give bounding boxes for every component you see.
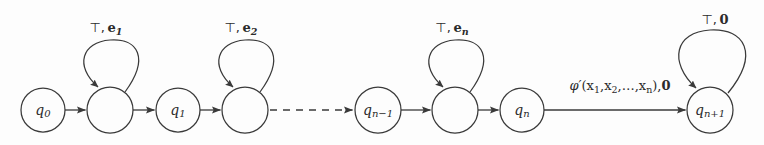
node-q1[interactable]: q1 — [156, 88, 200, 132]
node-aux1-circle[interactable] — [87, 87, 133, 133]
node-q0[interactable]: q0 — [21, 88, 65, 132]
automaton-figure: q0 q1 qn−1 qn — [0, 0, 764, 145]
self-loop-label-1: ⊤, e1 — [90, 20, 123, 37]
node-aux2-circle[interactable] — [222, 87, 268, 133]
node-aux1[interactable] — [87, 87, 133, 133]
node-aux2[interactable] — [222, 87, 268, 133]
self-loop-label-final: ⊤, 0 — [701, 12, 728, 27]
loop-labels-layer: ⊤, e1 ⊤, e2 ⊤, en ⊤, 0 — [90, 12, 729, 37]
self-loop-label-n: ⊤, en — [435, 20, 468, 37]
node-qn-minus-1[interactable]: qn−1 — [355, 87, 401, 133]
self-loop-qn+1 — [679, 30, 746, 93]
self-loop-label-2: ⊤, e2 — [225, 20, 258, 37]
node-qn[interactable]: qn — [500, 88, 544, 132]
automaton-svg-canvas: q0 q1 qn−1 qn — [0, 0, 764, 145]
self-loop-aux1 — [84, 40, 139, 92]
self-loop-aux2 — [219, 40, 274, 92]
self-loop-auxn — [429, 40, 484, 92]
transition-label-phi-prime: φ′(x1,x2,…,xn),0 — [569, 78, 670, 95]
node-qn-plus-1[interactable]: qn+1 — [687, 87, 733, 133]
node-auxn-circle[interactable] — [432, 87, 478, 133]
node-auxn[interactable] — [432, 87, 478, 133]
transition-label-layer: φ′(x1,x2,…,xn),0 — [569, 78, 670, 95]
